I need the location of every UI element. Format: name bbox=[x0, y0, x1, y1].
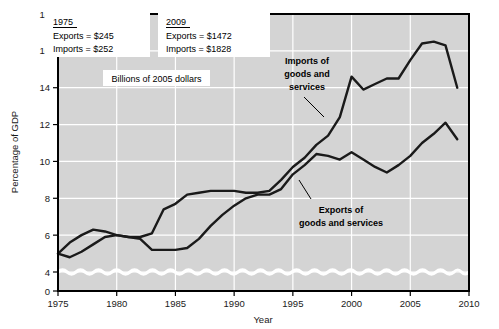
exports-annotation-line-1: Exports of bbox=[319, 205, 365, 215]
x-tick-label: 1985 bbox=[165, 298, 186, 309]
y-axis-title: Percentage of GDP bbox=[9, 111, 20, 193]
y-tick-label: 8 bbox=[45, 193, 50, 204]
imports-annotation-line-1: Imports of bbox=[285, 56, 330, 66]
x-tick-label: 1995 bbox=[282, 298, 303, 309]
y-tick-label: 12 bbox=[39, 119, 50, 130]
x-tick-label: 1990 bbox=[224, 298, 245, 309]
chart-container: 04681012141618 1975198019851990199520002… bbox=[0, 0, 499, 329]
callout-box-1975-row-0: Exports = $245 bbox=[53, 31, 114, 41]
trade-gdp-line-chart: 04681012141618 1975198019851990199520002… bbox=[0, 0, 499, 329]
x-axis-title: Year bbox=[253, 314, 272, 325]
units-note: Billions of 2005 dollars bbox=[103, 70, 210, 86]
exports-annotation-line-2: goods and services bbox=[299, 218, 383, 228]
y-tick-label: 10 bbox=[39, 156, 50, 167]
x-tick-label: 1980 bbox=[106, 298, 127, 309]
callout-box-1975-heading: 1975 bbox=[53, 17, 73, 27]
imports-annotation-line-3: services bbox=[289, 82, 325, 92]
units-note-label: Billions of 2005 dollars bbox=[111, 74, 202, 84]
callout-box-2009-row-1: Imports = $1828 bbox=[166, 44, 231, 54]
y-tick-label: 6 bbox=[45, 230, 50, 241]
x-tick-label: 2010 bbox=[458, 298, 479, 309]
x-tick-label: 1975 bbox=[47, 298, 68, 309]
callout-box-2009: 2009 Exports = $1472 Imports = $1828 bbox=[158, 12, 270, 57]
callout-box-2009-heading: 2009 bbox=[166, 17, 186, 27]
callout-box-2009-row-0: Exports = $1472 bbox=[166, 31, 232, 41]
x-tick-label: 2005 bbox=[400, 298, 421, 309]
callout-box-1975: 1975 Exports = $245 Imports = $252 bbox=[45, 12, 150, 57]
x-tick-label: 2000 bbox=[341, 298, 362, 309]
y-tick-label: 4 bbox=[45, 267, 50, 278]
imports-annotation-line-2: goods and bbox=[284, 69, 330, 79]
y-tick-label: 0 bbox=[45, 286, 50, 297]
callout-box-1975-row-1: Imports = $252 bbox=[53, 44, 113, 54]
y-tick-label: 14 bbox=[39, 82, 50, 93]
